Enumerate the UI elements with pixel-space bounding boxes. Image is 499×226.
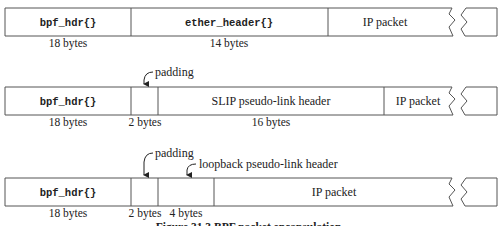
field-bpf-hdr: bpf_hdr{} <box>40 17 97 29</box>
size-label-padding: 2 bytes <box>129 116 162 129</box>
field-ip-packet: IP packet <box>363 15 408 29</box>
padding-arrow <box>144 72 153 84</box>
row-slip: padding bpf_hdr{} SLIP pseudo-link heade… <box>5 65 497 129</box>
size-label-loopback-header: 4 bytes <box>170 207 203 220</box>
figure-caption: Figure 31.3 BPF packet encapsulation. <box>156 221 345 226</box>
padding-arrow <box>144 153 153 175</box>
size-label-slip-header: 16 bytes <box>252 116 291 129</box>
size-label-padding: 2 bytes <box>129 207 162 220</box>
size-label-bpf-hdr: 18 bytes <box>49 207 88 220</box>
size-label-bpf-hdr: 18 bytes <box>49 116 88 129</box>
field-slip-header: SLIP pseudo-link header <box>212 94 331 108</box>
row-loopback: padding loopback pseudo-link header bpf_… <box>5 146 497 220</box>
row-ethernet: bpf_hdr{} ether_header{} IP packet 18 by… <box>5 8 497 50</box>
annotation-loopback-header: loopback pseudo-link header <box>199 157 338 171</box>
size-label-ether-header: 14 bytes <box>210 37 249 50</box>
field-bpf-hdr: bpf_hdr{} <box>40 96 97 108</box>
loopback-header-arrow <box>187 164 196 175</box>
size-label-bpf-hdr: 18 bytes <box>49 37 88 50</box>
annotation-padding: padding <box>155 146 194 160</box>
annotation-padding: padding <box>155 65 194 79</box>
field-bpf-hdr: bpf_hdr{} <box>40 187 97 199</box>
field-ip-packet: IP packet <box>396 94 441 108</box>
field-ether-header: ether_header{} <box>185 17 273 29</box>
bpf-encapsulation-diagram: bpf_hdr{} ether_header{} IP packet 18 by… <box>0 0 499 226</box>
field-ip-packet: IP packet <box>312 185 357 199</box>
